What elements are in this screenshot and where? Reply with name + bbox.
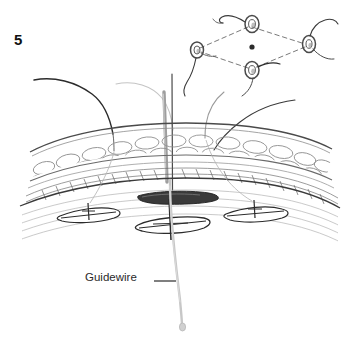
guidewire-tip bbox=[179, 323, 185, 331]
needle-inner-shaft bbox=[172, 74, 173, 190]
illustration-canvas bbox=[0, 0, 352, 350]
suture-knot-top bbox=[213, 16, 259, 33]
suture-thread-right bbox=[205, 92, 224, 138]
suture-thread-left-tail bbox=[113, 134, 114, 151]
central-incision-slot bbox=[138, 191, 219, 204]
surgical-figure-illustration: 5 Guidewire bbox=[0, 0, 352, 350]
suture-thread-left bbox=[34, 79, 113, 134]
subcutaneous-fat-layer bbox=[28, 123, 335, 198]
figure-number: 5 bbox=[14, 32, 22, 47]
suture-knot-left bbox=[184, 42, 216, 96]
deep-suture-anchor-left bbox=[57, 203, 120, 223]
suture-knot-right bbox=[303, 19, 339, 59]
suture-knot-bottom bbox=[242, 62, 280, 97]
deep-suture-anchor-right bbox=[224, 200, 288, 222]
guidewire-label: Guidewire bbox=[85, 272, 137, 284]
diamond-center-dot bbox=[249, 44, 254, 49]
inset-diamond-diagram bbox=[184, 16, 338, 151]
inset-trailing-suture bbox=[214, 100, 295, 150]
suture-threads-exterior bbox=[34, 79, 224, 151]
